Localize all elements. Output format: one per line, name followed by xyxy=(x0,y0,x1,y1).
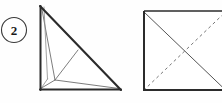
diagram-canvas: 2 xyxy=(0,0,222,103)
step-number-badge: 2 xyxy=(2,18,27,43)
step-badge-label: 2 xyxy=(11,23,18,38)
right-figure-square-with-diagonals xyxy=(143,11,222,91)
diagram-svg: 2 xyxy=(0,0,222,103)
